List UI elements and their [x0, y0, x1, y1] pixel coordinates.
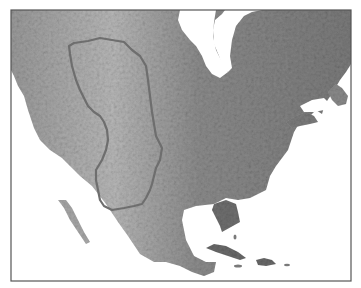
island-jamaica: [234, 265, 242, 268]
island-bahamas: [234, 235, 237, 240]
relief-map: [0, 0, 361, 288]
map-container: [0, 0, 361, 288]
island-puerto-rico: [284, 264, 290, 266]
